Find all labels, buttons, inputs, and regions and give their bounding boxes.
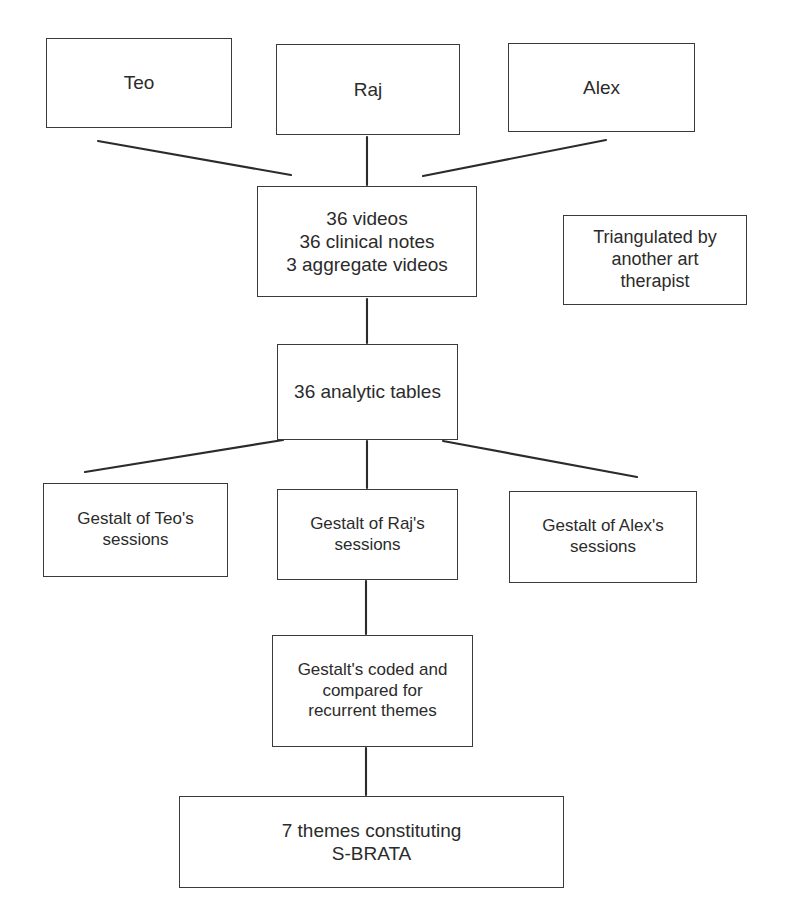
node-materials-collected-label: 36 videos 36 clinical notes 3 aggregate … <box>258 207 476 277</box>
node-analytic-tables: 36 analytic tables <box>277 344 458 440</box>
node-themes-constituting-s-brata: 7 themes constituting S-BRATA <box>179 796 564 888</box>
node-alex: Alex <box>508 43 695 132</box>
edge-tables-to-gestalt-teo <box>85 440 283 472</box>
node-triangulated-label: Triangulated by another art therapist <box>564 227 746 293</box>
node-gestalt-raj-sessions-label: Gestalt of Raj's sessions <box>278 514 457 555</box>
connector-layer <box>0 0 787 924</box>
node-gestalt-alex-sessions-label: Gestalt of Alex's sessions <box>510 516 696 557</box>
flowchart-canvas: Teo Raj Alex 36 videos 36 clinical notes… <box>0 0 787 924</box>
node-gestalt-teo-sessions: Gestalt of Teo's sessions <box>43 483 228 577</box>
node-gestalts-coded-and-compared-label: Gestalt's coded and compared for recurre… <box>273 660 472 722</box>
node-gestalts-coded-and-compared: Gestalt's coded and compared for recurre… <box>272 635 473 747</box>
node-triangulated-by-another-art-therapist: Triangulated by another art therapist <box>563 215 747 305</box>
edge-teo-to-materials <box>98 141 291 175</box>
node-themes-constituting-s-brata-label: 7 themes constituting S-BRATA <box>180 819 563 865</box>
node-teo-label: Teo <box>47 71 231 94</box>
node-gestalt-raj-sessions: Gestalt of Raj's sessions <box>277 489 458 580</box>
node-gestalt-alex-sessions: Gestalt of Alex's sessions <box>509 491 697 583</box>
node-analytic-tables-label: 36 analytic tables <box>278 380 457 403</box>
edge-tables-to-gestalt-alex <box>443 441 637 477</box>
edge-alex-to-materials <box>423 140 606 176</box>
node-materials-collected: 36 videos 36 clinical notes 3 aggregate … <box>257 186 477 297</box>
node-raj: Raj <box>276 44 460 135</box>
node-alex-label: Alex <box>509 76 694 99</box>
node-gestalt-teo-sessions-label: Gestalt of Teo's sessions <box>44 509 227 550</box>
node-teo: Teo <box>46 38 232 128</box>
node-raj-label: Raj <box>277 78 459 101</box>
